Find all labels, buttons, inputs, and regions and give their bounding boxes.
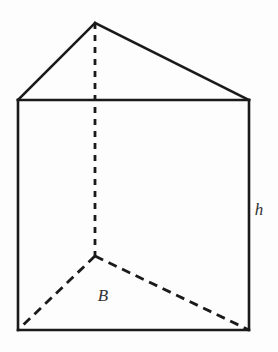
base-label: B — [98, 286, 109, 305]
hidden-base-right-edge — [95, 256, 249, 330]
prism-diagram: h B — [0, 0, 278, 352]
top-face-right-edge — [95, 23, 249, 100]
hidden-base-left-edge — [18, 256, 95, 330]
top-face-left-edge — [18, 23, 95, 100]
height-label: h — [255, 200, 264, 219]
prism-figure-container: h B — [0, 0, 278, 352]
